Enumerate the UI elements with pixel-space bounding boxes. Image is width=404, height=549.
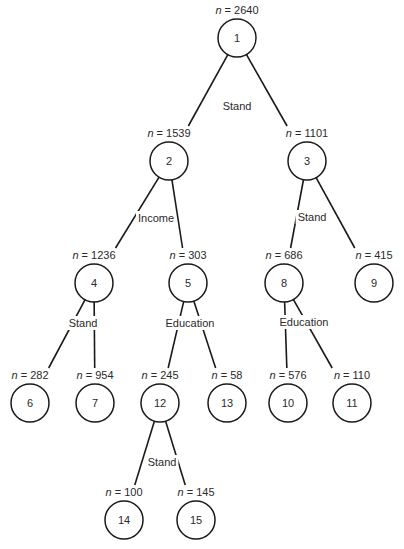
sample-size-label: n = 245 xyxy=(141,369,178,381)
node-id-label: 15 xyxy=(190,514,202,526)
tree-node-5: 5n = 303 xyxy=(169,249,207,302)
split-variable-label: Stand xyxy=(298,211,327,223)
tree-node-11: 11n = 110 xyxy=(333,369,371,422)
node-id-label: 5 xyxy=(185,277,191,289)
node-id-label: 7 xyxy=(92,397,98,409)
tree-node-7: 7n = 954 xyxy=(76,369,114,422)
node-id-label: 8 xyxy=(281,277,287,289)
sample-size-label: n = 1236 xyxy=(72,249,115,261)
tree-node-8: 8n = 686 xyxy=(265,249,303,302)
tree-node-1: 1n = 2640 xyxy=(215,4,258,57)
split-variable-label: Education xyxy=(166,317,215,329)
sample-size-label: n = 2640 xyxy=(215,4,258,16)
node-id-label: 10 xyxy=(282,397,294,409)
tree-node-6: 6n = 282 xyxy=(11,369,49,422)
tree-node-2: 2n = 1539 xyxy=(147,127,190,180)
sample-size-label: n = 954 xyxy=(76,369,113,381)
sample-size-label: n = 100 xyxy=(105,486,142,498)
node-id-label: 2 xyxy=(166,155,172,167)
node-id-label: 9 xyxy=(371,277,377,289)
edge-8-10 xyxy=(285,301,287,368)
edge-4-6 xyxy=(49,299,86,368)
sample-size-label: n = 145 xyxy=(177,486,214,498)
edge-1-3 xyxy=(246,54,287,126)
edge-12-14 xyxy=(135,420,155,485)
sample-size-label: n = 58 xyxy=(212,369,243,381)
split-variable-label: Stand xyxy=(223,100,252,112)
tree-node-15: 15n = 145 xyxy=(177,486,215,539)
edge-1-2 xyxy=(188,54,228,126)
tree-node-3: 3n = 1101 xyxy=(286,127,328,180)
tree-node-14: 14n = 100 xyxy=(105,486,143,539)
edge-8-11 xyxy=(293,299,332,368)
tree-node-9: 9n = 415 xyxy=(355,249,393,302)
node-id-label: 13 xyxy=(221,397,233,409)
split-variable-label: Income xyxy=(138,212,174,224)
node-id-label: 14 xyxy=(118,514,130,526)
sample-size-label: n = 1101 xyxy=(286,127,328,139)
split-variable-label: Education xyxy=(280,316,329,328)
sample-size-label: n = 415 xyxy=(355,249,392,261)
split-variable-label: Stand xyxy=(69,317,98,329)
edge-12-15 xyxy=(165,420,185,485)
tree-node-13: 13n = 58 xyxy=(208,369,246,422)
tree-node-12: 12n = 245 xyxy=(141,369,179,422)
node-id-label: 11 xyxy=(346,397,357,409)
edge-5-13 xyxy=(194,300,216,368)
node-id-label: 12 xyxy=(154,397,166,409)
edge-5-12 xyxy=(168,301,184,368)
node-id-label: 4 xyxy=(91,277,97,289)
node-id-label: 6 xyxy=(27,397,33,409)
edge-4-7 xyxy=(94,301,95,368)
sample-size-label: n = 303 xyxy=(169,249,206,261)
tree-nodes: 1n = 26402n = 15393n = 11014n = 12365n =… xyxy=(11,4,393,539)
decision-tree-diagram: 1n = 26402n = 15393n = 11014n = 12365n =… xyxy=(0,0,404,549)
tree-node-10: 10n = 576 xyxy=(269,369,307,422)
node-id-label: 1 xyxy=(234,32,240,44)
sample-size-label: n = 576 xyxy=(269,369,306,381)
sample-size-label: n = 686 xyxy=(265,249,302,261)
sample-size-label: n = 110 xyxy=(334,369,370,381)
tree-node-4: 4n = 1236 xyxy=(72,249,115,302)
node-id-label: 3 xyxy=(304,155,310,167)
sample-size-label: n = 1539 xyxy=(147,127,190,139)
split-variable-label: Stand xyxy=(148,456,177,468)
sample-size-label: n = 282 xyxy=(11,369,48,381)
